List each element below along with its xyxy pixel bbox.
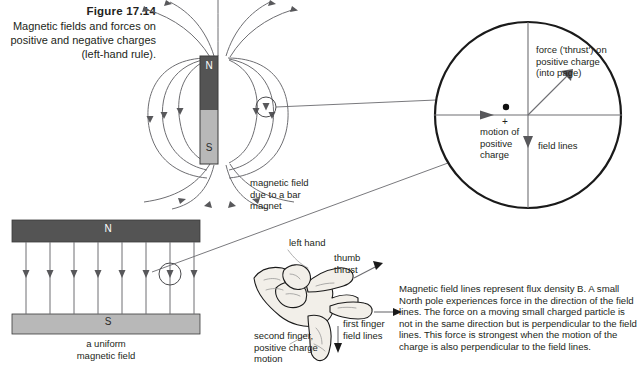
- field-lines-label: field lines: [538, 140, 608, 152]
- thrust-arrow-shaft: [528, 75, 568, 115]
- force-label-line1: force ('thrust') on: [536, 44, 628, 56]
- uniform-field-caption-line2: magnetic field: [46, 350, 166, 362]
- uniform-field-north-label: N: [88, 223, 128, 235]
- force-label-line3: (into page): [536, 67, 628, 79]
- uniform-field-caption-line1: a uniform: [46, 338, 166, 350]
- first-finger-label: first finger field lines: [343, 318, 407, 341]
- force-thrust-label: force ('thrust') on positive charge (int…: [536, 44, 628, 79]
- second-finger-label: second finger, positive charge motion: [254, 330, 346, 365]
- force-label-line2: positive charge: [536, 56, 628, 68]
- motion-arrowhead: [480, 111, 494, 120]
- second-finger-line2: positive charge: [254, 342, 346, 354]
- second-finger-line1: second finger,: [254, 330, 346, 342]
- uniform-field-diagram: N S a uniform magnetic field: [8, 218, 208, 358]
- magnified-view: force ('thrust') on positive charge (int…: [428, 18, 632, 214]
- uniform-field-arrowheads: [23, 270, 198, 278]
- uniform-field-caption: a uniform magnetic field: [46, 338, 166, 361]
- thumb-label-line2: thrust: [334, 264, 394, 276]
- figure-root: Figure 17.14 Magnetic fields and forces …: [0, 0, 638, 375]
- second-finger-line3: motion: [254, 353, 346, 365]
- thumb-label: thumb thrust: [334, 252, 394, 275]
- uniform-field-south-label: S: [88, 316, 128, 328]
- first-finger-line2: field lines: [343, 330, 407, 342]
- positive-charge-dot: [503, 104, 509, 110]
- uniform-field-lines: [26, 242, 194, 314]
- motion-label-line1: motion of: [480, 126, 550, 138]
- first-finger-line1: first finger: [343, 318, 407, 330]
- uniform-field-svg: [8, 218, 208, 358]
- thumb-label-line1: thumb: [334, 252, 394, 264]
- explanatory-paragraph: Magnetic field lines represent flux dens…: [399, 283, 637, 353]
- left-hand-title: left hand: [289, 237, 359, 249]
